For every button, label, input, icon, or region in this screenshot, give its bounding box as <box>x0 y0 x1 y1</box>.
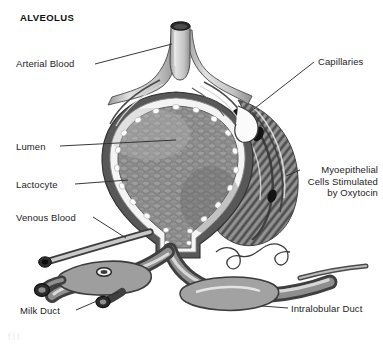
label-lumen: Lumen <box>16 141 46 153</box>
label-myoepithelial-cells: MyoepithelialCells Stimulatedby Oxytocin <box>308 164 378 199</box>
leader-capillaries <box>250 62 314 112</box>
label-capillaries: Capillaries <box>318 56 363 68</box>
label-arterial-blood: Arterial Blood <box>16 58 74 70</box>
figure-title: ALVEOLUS <box>20 12 74 23</box>
leader-venous-blood <box>93 217 126 238</box>
cropped-footer-text: f l l <box>8 332 118 344</box>
myo-line-3: by Oxytocin <box>327 187 378 198</box>
myo-line-1: Myoepithelial <box>321 164 378 175</box>
duct-outline-squiggle <box>216 244 290 269</box>
leader-arterial-blood <box>95 44 172 64</box>
label-intralobular-duct: Intralobular Duct <box>291 303 362 315</box>
label-milk-duct: Milk Duct <box>20 305 60 317</box>
lobular-sac <box>58 261 151 295</box>
myo-line-2: Cells Stimulated <box>308 176 378 187</box>
leader-intralobular-duct <box>262 306 288 308</box>
label-lactocyte: Lactocyte <box>16 179 58 191</box>
label-venous-blood: Venous Blood <box>16 212 76 224</box>
